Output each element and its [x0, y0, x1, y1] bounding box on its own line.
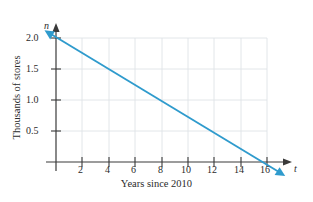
x-axis-caption: Years since 2010 [0, 178, 313, 189]
data-line-series-stores [45, 30, 286, 176]
y-axis-caption: Thousands of stores [11, 38, 22, 158]
x-tick-label-8: 8 [158, 164, 163, 175]
x-tick-label-12: 12 [207, 164, 217, 175]
y-tick-label-1-0: 1.0 [26, 94, 39, 105]
x-tick-label-2: 2 [78, 164, 83, 175]
x-tick-label-6: 6 [131, 164, 136, 175]
y-axis-symbol: n [44, 20, 49, 31]
grid-horizontal [56, 38, 267, 131]
y-tick-label-0-5: 0.5 [26, 125, 39, 136]
x-axis-symbol: t [294, 163, 297, 174]
x-tick-label-14: 14 [234, 164, 244, 175]
x-tick-label-10: 10 [181, 164, 191, 175]
x-tick-label-16: 16 [260, 164, 270, 175]
y-tick-label-1-5: 1.5 [26, 63, 39, 74]
x-tick-label-4: 4 [105, 164, 110, 175]
y-tick-label-2-0: 2.0 [26, 32, 39, 43]
figure-container: 2 4 6 8 10 12 14 16 2.0 1.5 1.0 0.5 n t … [0, 0, 313, 202]
y-axis [52, 23, 59, 171]
